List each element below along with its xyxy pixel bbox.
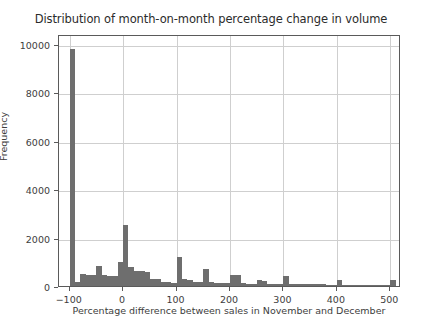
y-tick-label: 8000 bbox=[6, 88, 50, 99]
gridline-vertical bbox=[283, 36, 284, 286]
y-tick-label: 0 bbox=[6, 282, 50, 293]
gridline-horizontal bbox=[59, 94, 399, 95]
x-tick-label: 400 bbox=[327, 294, 345, 305]
x-tick-mark bbox=[176, 287, 177, 291]
x-tick-mark bbox=[229, 287, 230, 291]
x-tick-mark bbox=[336, 287, 337, 291]
gridline-vertical bbox=[230, 36, 231, 286]
x-tick-label: 300 bbox=[273, 294, 291, 305]
x-tick-label: 500 bbox=[380, 294, 398, 305]
gridline-horizontal bbox=[59, 46, 399, 47]
plot-area bbox=[58, 35, 400, 287]
gridline-horizontal bbox=[59, 143, 399, 144]
x-tick-label: −100 bbox=[56, 294, 82, 305]
y-tick-label: 6000 bbox=[6, 136, 50, 147]
x-tick-mark bbox=[282, 287, 283, 291]
y-tick-label: 4000 bbox=[6, 185, 50, 196]
x-axis-label: Percentage difference between sales in N… bbox=[58, 305, 400, 316]
histogram-bar bbox=[390, 280, 395, 286]
x-tick-label: 100 bbox=[166, 294, 184, 305]
x-tick-mark bbox=[69, 287, 70, 291]
y-tick-mark bbox=[54, 287, 58, 288]
gridline-horizontal bbox=[59, 240, 399, 241]
x-tick-mark bbox=[389, 287, 390, 291]
y-tick-label: 2000 bbox=[6, 233, 50, 244]
gridline-horizontal bbox=[59, 191, 399, 192]
chart-figure: Distribution of month-on-month percentag… bbox=[0, 0, 422, 330]
gridline-vertical bbox=[390, 36, 391, 286]
gridline-vertical bbox=[337, 36, 338, 286]
x-tick-label: 0 bbox=[119, 294, 125, 305]
x-tick-label: 200 bbox=[220, 294, 238, 305]
y-tick-label: 10000 bbox=[6, 39, 50, 50]
gridline-vertical bbox=[177, 36, 178, 286]
histogram-bar bbox=[70, 49, 75, 286]
x-tick-mark bbox=[122, 287, 123, 291]
chart-title: Distribution of month-on-month percentag… bbox=[0, 12, 422, 26]
